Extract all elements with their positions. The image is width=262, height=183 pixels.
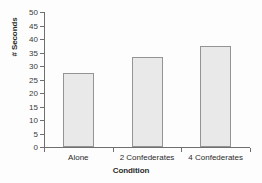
x-axis-tick-mark — [44, 148, 45, 152]
y-axis-tick-label: 0 — [22, 143, 38, 152]
bar — [200, 46, 231, 147]
y-axis-tick-mark — [40, 107, 44, 108]
x-axis-category-label: 4 Confederates — [188, 153, 243, 162]
y-axis-tick-mark — [40, 120, 44, 121]
y-axis-title: # Seconds — [10, 7, 22, 67]
y-axis-tick-mark — [40, 66, 44, 67]
x-axis-line — [44, 147, 250, 148]
x-axis-tick-mark — [113, 148, 114, 152]
y-axis-tick-label: 25 — [22, 75, 38, 84]
bar — [132, 57, 163, 147]
y-axis-line — [44, 12, 45, 148]
x-axis-title: Condition — [0, 166, 262, 175]
y-axis-tick-mark — [40, 93, 44, 94]
y-axis-tick-label: 50 — [22, 8, 38, 17]
y-axis-tick-mark — [40, 134, 44, 135]
y-axis-tick-mark — [40, 12, 44, 13]
y-axis-tick-mark — [40, 53, 44, 54]
y-axis-tick-label: 45 — [22, 21, 38, 30]
x-axis-tick-mark — [250, 148, 251, 152]
y-axis-tick-label: 5 — [22, 129, 38, 138]
plot-area: 05101520253035404550 — [44, 12, 250, 148]
y-axis-tick-label: 15 — [22, 102, 38, 111]
x-axis-category-label: Alone — [68, 153, 88, 162]
y-axis-tick-label: 30 — [22, 62, 38, 71]
y-axis-tick-label: 35 — [22, 48, 38, 57]
y-axis-tick-mark — [40, 39, 44, 40]
x-axis-tick-mark — [181, 148, 182, 152]
bar-chart-figure: # Seconds 05101520253035404550 Alone2 Co… — [0, 0, 262, 183]
y-axis-tick-label: 20 — [22, 89, 38, 98]
y-axis-tick-mark — [40, 80, 44, 81]
y-axis-tick-label: 40 — [22, 35, 38, 44]
y-axis-tick-label: 10 — [22, 116, 38, 125]
bar — [63, 73, 94, 147]
x-axis-category-label: 2 Confederates — [120, 153, 175, 162]
y-axis-tick-mark — [40, 26, 44, 27]
